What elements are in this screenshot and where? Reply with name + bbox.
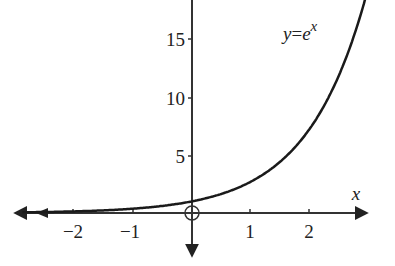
y-tick-label: 10	[166, 88, 185, 109]
function-label-base: e	[302, 23, 310, 44]
function-label-exp: x	[310, 18, 318, 34]
function-label: y=ex	[281, 18, 318, 44]
x-axis-label: x	[351, 183, 361, 204]
x-tick-label: 2	[304, 221, 314, 242]
x-tick-label: 1	[245, 221, 255, 242]
x-tick-label: −1	[120, 221, 140, 242]
y-tick-label: 5	[176, 146, 186, 167]
exponential-chart: −2 −1 1 2 15 10 5 x y=ex	[0, 0, 395, 266]
function-label-eq: =	[291, 23, 302, 44]
function-label-y: y	[281, 23, 292, 44]
y-tick-label: 15	[166, 29, 185, 50]
x-tick-label: −2	[63, 221, 83, 242]
